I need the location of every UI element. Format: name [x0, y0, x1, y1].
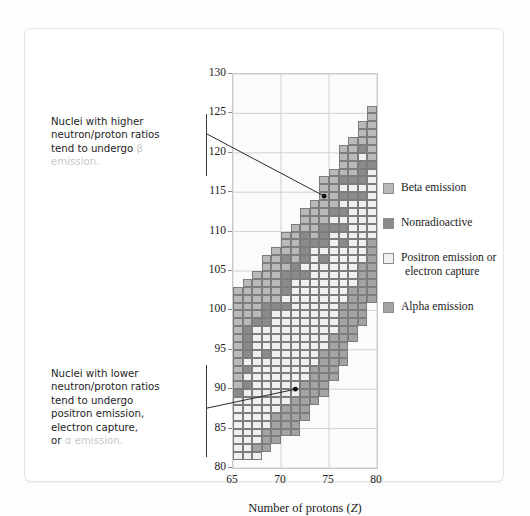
annotation-upper: Nuclei with higher neutron/proton ratios… — [51, 115, 201, 169]
annotation-lower-line1: Nuclei with lower — [51, 367, 203, 380]
legend-swatch-alpha — [383, 302, 394, 313]
legend-label-positron-line2: electron capture — [405, 265, 479, 278]
legend-swatch-beta — [383, 183, 394, 194]
y-tick-105: 105 — [192, 264, 226, 276]
x-tick-75: 75 — [308, 474, 348, 486]
legend-label-stable: Nonradioactive — [401, 216, 472, 230]
y-tick-mark — [228, 309, 232, 310]
annotation-leader-lines — [233, 74, 377, 468]
annotation-upper-line4: emission. — [51, 155, 201, 168]
y-tick-mark — [228, 467, 232, 468]
legend-swatch-stable — [383, 218, 394, 229]
x-tick-65: 65 — [212, 474, 252, 486]
legend: Beta emissionNonradioactivePositron emis… — [383, 181, 523, 335]
annotation-lower-line4: positron emission, — [51, 407, 203, 420]
y-tick-mark — [228, 388, 232, 389]
annotation-lower-rule — [206, 365, 207, 457]
y-tick-80: 80 — [192, 461, 226, 473]
y-tick-95: 95 — [192, 343, 226, 355]
y-tick-mark — [228, 73, 232, 74]
annotation-upper-line1: Nuclei with higher — [51, 115, 201, 128]
legend-label-alpha: Alpha emission — [401, 300, 473, 314]
legend-item-positron: Positron emission orelectron capture — [383, 251, 523, 279]
x-axis-label-suffix: ) — [358, 501, 362, 515]
legend-label-beta: Beta emission — [401, 181, 466, 195]
y-tick-mark — [228, 152, 232, 153]
annotation-upper-line3: tend to undergo β — [51, 142, 201, 155]
y-tick-130: 130 — [192, 67, 226, 79]
annotation-lower: Nuclei with lower neutron/proton ratios … — [51, 367, 203, 447]
annotation-lower-line3: tend to undergo — [51, 394, 203, 407]
x-tick-70: 70 — [260, 474, 300, 486]
annotation-upper-beta-symbol: β — [136, 143, 143, 154]
legend-swatch-positron — [383, 253, 394, 264]
y-tick-mark — [228, 270, 232, 271]
nuclide-chart-plot — [232, 73, 378, 469]
annotation-lower-alpha-symbol: α emission. — [65, 435, 123, 446]
x-tick-80: 80 — [356, 474, 396, 486]
y-tick-mark — [228, 112, 232, 113]
legend-label-positron: Positron emission orelectron capture — [401, 251, 496, 279]
x-axis-label-variable: Z — [351, 501, 358, 515]
annotation-lower-line6-text: or — [51, 435, 65, 446]
annotation-lower-line5: electron capture, — [51, 421, 203, 434]
x-axis-label: Number of protons (Z) — [175, 501, 435, 516]
y-tick-110: 110 — [192, 225, 226, 237]
x-axis-label-prefix: Number of protons ( — [248, 501, 350, 515]
annotation-lower-line6: or α emission. — [51, 434, 203, 447]
y-tick-mark — [228, 231, 232, 232]
legend-item-beta: Beta emission — [383, 181, 523, 195]
legend-item-alpha: Alpha emission — [383, 300, 523, 314]
annotation-lower-line2: neutron/proton ratios — [51, 380, 203, 393]
annotation-upper-line2: neutron/proton ratios — [51, 128, 201, 141]
y-tick-115: 115 — [192, 185, 226, 197]
y-tick-mark — [228, 349, 232, 350]
figure-card: 80859095100105110115120125130 65707580 N… — [24, 28, 504, 482]
annotation-upper-line3-text: tend to undergo — [51, 143, 136, 154]
legend-item-stable: Nonradioactive — [383, 216, 523, 230]
y-tick-mark — [228, 428, 232, 429]
annotation-upper-rule — [206, 114, 207, 176]
y-tick-100: 100 — [192, 303, 226, 315]
y-tick-mark — [228, 191, 232, 192]
